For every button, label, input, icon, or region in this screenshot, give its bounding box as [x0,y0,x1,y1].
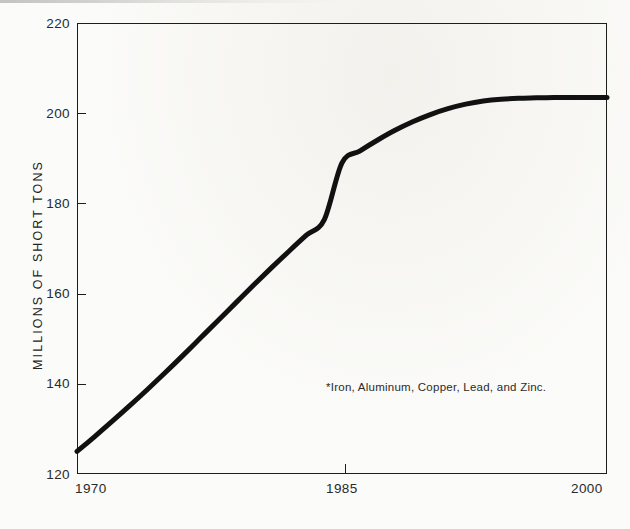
x-tick-label-1970: 1970 [75,481,107,496]
scan-artifact-streak [0,0,340,3]
y-tick-mark-200 [77,113,86,114]
y-tick-label-220: 220 [18,16,70,31]
y-tick-label-120: 120 [18,467,70,482]
y-axis-title: MILLIONS OF SHORT TONS [31,155,45,375]
y-tick-mark-180 [77,203,86,204]
x-tick-label-2000: 2000 [571,481,603,496]
x-tick-label-1985: 1985 [326,481,358,496]
y-tick-mark-160 [77,294,86,295]
footnote-text: *Iron, Aluminum, Copper, Lead, and Zinc. [326,381,546,393]
y-tick-mark-140 [77,384,86,385]
y-tick-label-200: 200 [18,106,70,121]
chart-page: 220 200 180 160 140 120 1970 1985 2000 M… [0,0,630,529]
y-tick-label-140: 140 [18,376,70,391]
x-tick-mark-1985 [345,464,346,474]
plot-area-frame [77,23,607,474]
